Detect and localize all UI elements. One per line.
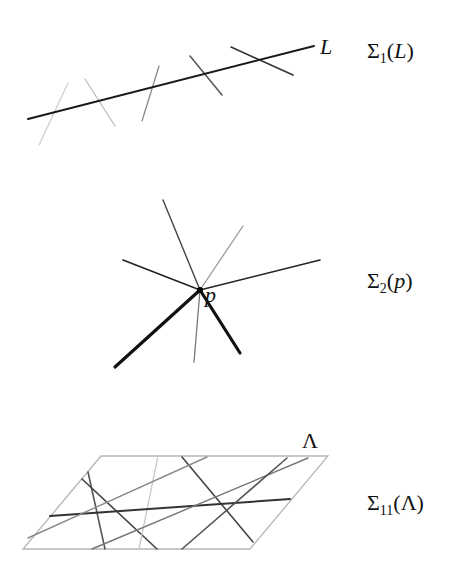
ray-through-p xyxy=(200,260,320,290)
sigma-symbol: Σ xyxy=(367,268,380,293)
paren-close: ) xyxy=(406,38,413,63)
sigma-argument: L xyxy=(394,38,406,63)
crossing-line xyxy=(231,47,293,75)
sigma-argument: Λ xyxy=(401,490,417,515)
plane-lambda xyxy=(23,456,328,549)
sigma-symbol: Σ xyxy=(367,38,380,63)
point-p xyxy=(197,287,203,293)
ray-through-p xyxy=(163,200,200,290)
crossing-line xyxy=(142,66,159,121)
plane-line xyxy=(50,499,290,516)
crossing-line xyxy=(39,83,68,145)
paren-close: ) xyxy=(417,490,424,515)
sigma-subscript: 2 xyxy=(380,281,387,296)
ray-through-p xyxy=(115,290,200,367)
sigma1-label: Σ1(L) xyxy=(367,38,414,67)
sigma-symbol: Σ xyxy=(367,490,380,515)
sigma-subscript: 1 xyxy=(380,51,387,66)
plane-line xyxy=(88,472,105,549)
line-label-L: L xyxy=(320,34,332,60)
main-line-L xyxy=(28,46,314,119)
plane-line xyxy=(92,458,308,549)
plane-line xyxy=(182,458,287,549)
plane-line xyxy=(139,456,158,549)
sigma-subscript: 11 xyxy=(380,503,393,518)
plane-line xyxy=(182,457,253,542)
point-label-p: p xyxy=(205,282,216,308)
sigma11-label: Σ11(Λ) xyxy=(367,490,424,519)
ray-through-p xyxy=(123,260,200,290)
paren-close: ) xyxy=(405,268,412,293)
ray-through-p xyxy=(194,290,200,362)
paren-open: ( xyxy=(393,490,400,515)
sigma2-label: Σ2(p) xyxy=(367,268,412,297)
sigma-argument: p xyxy=(394,268,405,293)
plane-label-lambda: Λ xyxy=(302,428,318,454)
plane-line xyxy=(28,457,207,538)
